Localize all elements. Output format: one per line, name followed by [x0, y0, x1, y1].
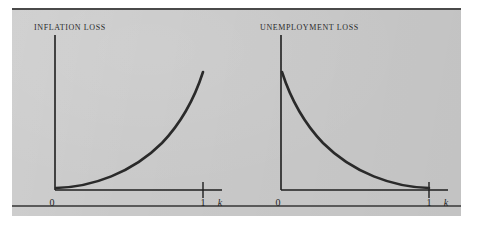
x-axis-label-k: k	[444, 197, 449, 208]
x-tick-label-1: 1	[201, 197, 206, 208]
unemployment-loss-curve	[282, 72, 429, 188]
inflation-loss-plot: 0 1 k	[12, 8, 236, 208]
chart-inflation-loss: INFLATION LOSS 0 1 k	[12, 8, 236, 208]
x-tick-label-0: 0	[50, 197, 55, 208]
x-tick-label-1: 1	[427, 197, 432, 208]
unemployment-loss-plot: 0 1 k	[238, 8, 462, 208]
x-tick-label-0: 0	[276, 197, 281, 208]
x-axis-label-k: k	[218, 197, 223, 208]
figure-root: INFLATION LOSS 0 1 k UNEMPLOYMENT LOSS	[0, 0, 477, 226]
inflation-loss-curve	[56, 72, 203, 188]
chart-unemployment-loss: UNEMPLOYMENT LOSS 0 1 k	[238, 8, 462, 208]
